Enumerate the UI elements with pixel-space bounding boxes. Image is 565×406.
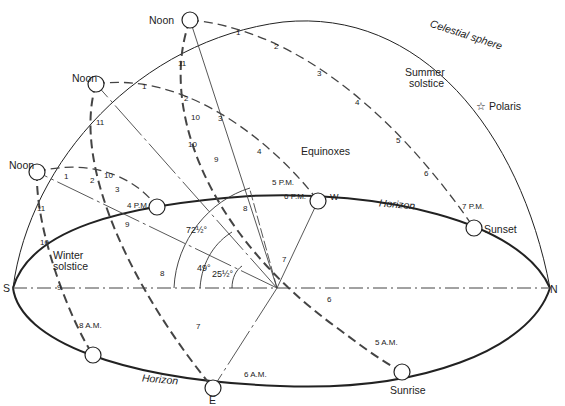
summer-hour: 7 <box>282 256 286 264</box>
winter-hour: 8 A.M. <box>79 322 102 330</box>
summer-hour: 11 <box>178 60 186 68</box>
summer-hour: 2 <box>274 43 278 51</box>
polaris-label: ☆ Polaris <box>476 101 521 112</box>
angle-equinox: 49° <box>197 264 211 273</box>
east-label: E <box>209 395 216 406</box>
summer-hour: 4 <box>355 99 359 107</box>
equinox-hour: 3 <box>218 115 222 123</box>
summer-solstice-label-2: solstice <box>409 78 444 89</box>
noon-mid-label: Noon <box>72 73 97 84</box>
equinox-sunset-sun <box>310 193 326 209</box>
summer-hour: 6 <box>327 296 331 304</box>
equinox-hour: 7 <box>196 323 200 331</box>
winter-hour: 1 <box>64 173 68 181</box>
sunrise-label: Sunrise <box>390 385 426 396</box>
summer-hour: 5 <box>396 137 400 145</box>
equinox-hour: 1 <box>142 83 146 91</box>
star-icon: ☆ <box>476 100 486 112</box>
summer-hour: 3 <box>317 70 321 78</box>
summer-hour: 1 <box>236 29 240 37</box>
winter-hour: 3 <box>115 186 119 194</box>
equinox-hour: 2 <box>184 95 188 103</box>
sun-path-diagram: Celestial sphere Summer solstice Equinox… <box>0 0 565 406</box>
angle-winter: 25½° <box>212 270 233 279</box>
summer-sunset-sun <box>466 220 482 236</box>
equinox-hour: 10 <box>188 141 197 149</box>
winter-sunrise-sun <box>85 347 101 363</box>
summer-hour: 7 P.M. <box>462 203 484 211</box>
equinox-hour: 6 A.M. <box>244 371 267 379</box>
summer-hour: 5 A.M. <box>375 339 398 347</box>
angle-summer: 72½° <box>186 226 207 235</box>
equinox-path-am <box>90 84 213 388</box>
winter-hour: 2 <box>90 177 94 185</box>
equinox-hour: 4 <box>257 148 261 156</box>
equinox-hour: 11 <box>96 119 104 127</box>
summer-solstice-label-1: Summer <box>405 67 445 78</box>
winter-sunset-sun <box>149 199 165 215</box>
equinox-hour: 8 <box>160 270 164 278</box>
winter-hour: 10 <box>104 172 113 180</box>
noon-summer-sun <box>182 12 198 28</box>
winter-hour: 10 <box>40 239 49 247</box>
noon-low-label: Noon <box>9 160 34 171</box>
winter-solstice-label-2: solstice <box>53 261 88 272</box>
summer-hour: 10 <box>191 114 200 122</box>
equinoxes-label: Equinoxes <box>301 146 350 157</box>
equinox-hour: 9 <box>125 221 129 229</box>
sunset-label: Sunset <box>484 224 517 235</box>
winter-solstice-label-1: Winter <box>53 250 83 261</box>
summer-hour: 9 <box>214 156 218 164</box>
horizon-front <box>13 288 550 387</box>
equinox-hour: 5 P.M. <box>272 179 294 187</box>
summer-sunrise-sun <box>394 364 410 380</box>
equinox-hour: 6 P.M. <box>284 193 306 201</box>
winter-hour: 4 P.M. <box>127 202 149 210</box>
north-label: N <box>550 284 558 295</box>
winter-hour: 9 <box>57 284 61 292</box>
summer-hour: 6 <box>424 170 428 178</box>
south-label: S <box>3 283 10 294</box>
noon-top-label: Noon <box>149 15 174 26</box>
summer-hour: 8 <box>243 205 247 213</box>
west-label: W <box>330 193 339 202</box>
winter-hour: 11 <box>37 205 45 213</box>
